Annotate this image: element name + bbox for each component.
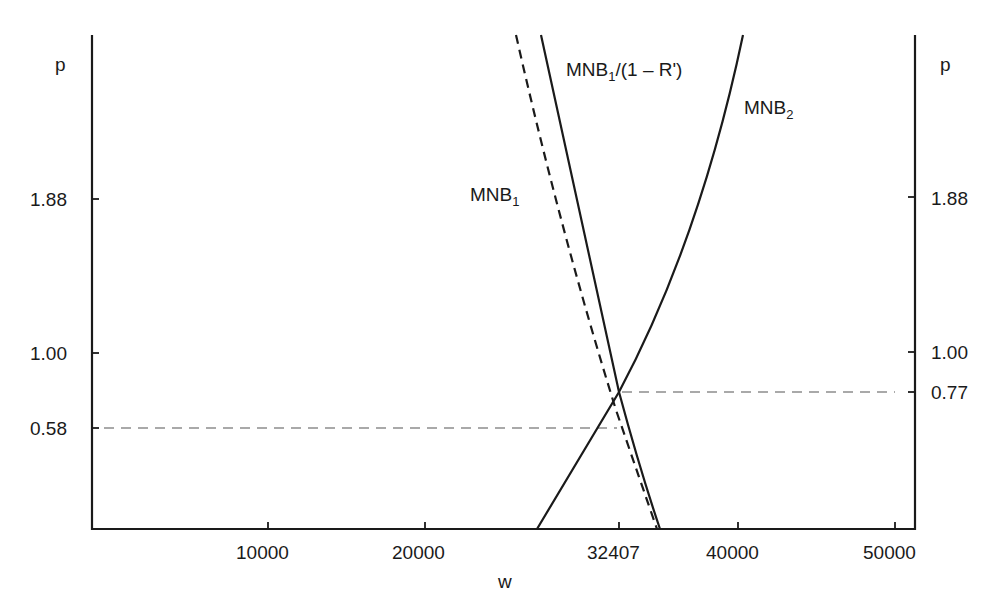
y-tick-left-058: 0.58	[30, 419, 67, 438]
y-axis-title-left: p	[55, 55, 66, 74]
y-tick-right-188: 1.88	[931, 189, 968, 208]
y-tick-left-100: 1.00	[30, 344, 67, 363]
chart-canvas	[0, 0, 1005, 614]
y-axis-title-right: p	[940, 55, 951, 74]
label-mnb2-main: MNB	[744, 97, 786, 118]
x-tick-20000: 20000	[392, 543, 445, 562]
x-tick-50000: 50000	[863, 543, 916, 562]
x-tick-10000: 10000	[236, 543, 289, 562]
y-tick-left-188: 1.88	[30, 190, 67, 209]
label-mnb1: MNB1	[470, 185, 519, 204]
label-ratio-tail: /(1 – R')	[615, 59, 682, 80]
label-ratio-main: MNB	[566, 59, 608, 80]
label-mnb2-sub: 2	[786, 107, 793, 122]
label-mnb2: MNB2	[744, 98, 793, 117]
curve-mnb1-ratio	[541, 35, 660, 529]
x-tick-40000: 40000	[706, 543, 759, 562]
label-ratio-sub: 1	[608, 69, 615, 84]
y-tick-right-100: 1.00	[931, 343, 968, 362]
curve-mnb2	[537, 35, 743, 529]
x-tick-32407: 32407	[587, 543, 640, 562]
label-mnb1-sub: 1	[512, 194, 519, 209]
label-mnb1-main: MNB	[470, 184, 512, 205]
label-mnb1-ratio: MNB1/(1 – R')	[566, 60, 682, 79]
y-tick-right-077: 0.77	[931, 383, 968, 402]
x-axis-title: w	[498, 572, 512, 591]
